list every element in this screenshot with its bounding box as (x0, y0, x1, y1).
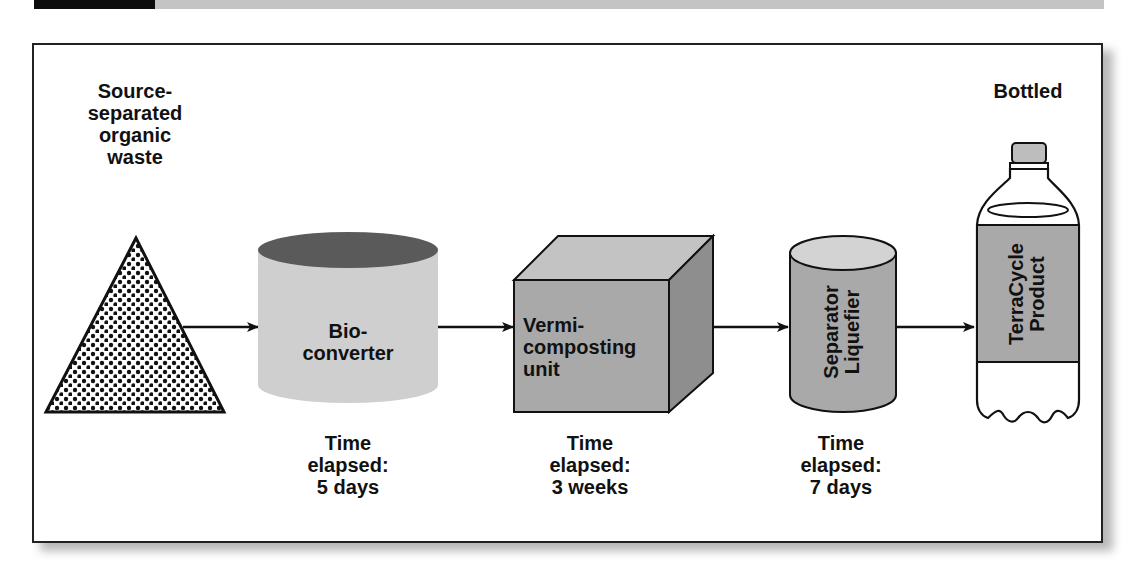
source-waste-label: Source- separated organic waste (70, 80, 200, 168)
bioconverter-cylinder-icon (258, 232, 438, 403)
bottled-heading: Bottled (970, 80, 1086, 102)
separator-time-label: Time elapsed: 7 days (781, 432, 901, 498)
separator-liquefier-label: Separator Liquefier (821, 272, 865, 392)
terracycle-product-label: TerraCycle Product (1006, 234, 1050, 354)
bioconverter-time-label: Time elapsed: 5 days (288, 432, 408, 498)
vermicomposting-label: Vermi- composting unit (523, 314, 668, 380)
waste-pile-icon (46, 238, 224, 412)
bioconverter-label: Bio- converter (280, 320, 416, 364)
vermicomposting-time-label: Time elapsed: 3 weeks (525, 432, 655, 498)
